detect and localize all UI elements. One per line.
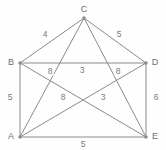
- graph-vertex-b: [18, 61, 21, 64]
- vertex-label-a: A: [8, 132, 14, 141]
- vertex-label-d: D: [152, 58, 159, 67]
- edge-weight-ca: 8: [60, 93, 67, 102]
- edge-weight-bd: 3: [79, 66, 86, 75]
- graph-vertex-e: [144, 135, 147, 138]
- edge-weight-de: 6: [153, 93, 160, 102]
- graph-edge-cd: [84, 18, 146, 63]
- graph-edge-bc: [20, 18, 84, 63]
- edge-weight-bc: 4: [42, 30, 49, 39]
- graph-vertex-d: [144, 61, 147, 64]
- vertex-label-b: B: [8, 58, 14, 67]
- edge-weight-ad: 8: [115, 67, 122, 76]
- graph-vertex-a: [18, 135, 21, 138]
- graph-canvas: [0, 0, 166, 150]
- graph-edge-ca: [20, 18, 84, 137]
- vertex-label-c: C: [81, 5, 88, 14]
- edge-weight-ba: 5: [7, 93, 14, 102]
- edge-weight-ae: 5: [80, 140, 87, 149]
- weighted-graph-diagram: ABCDE4535658838: [0, 0, 166, 150]
- edge-weight-ce: 3: [100, 93, 107, 102]
- graph-vertex-c: [82, 16, 85, 19]
- edge-weight-be: 8: [47, 67, 54, 76]
- vertex-label-e: E: [152, 132, 158, 141]
- edge-weight-cd: 5: [116, 30, 123, 39]
